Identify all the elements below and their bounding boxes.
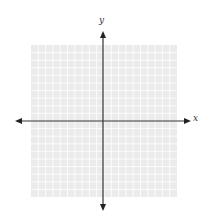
y-axis-up-arrow-icon: [100, 31, 106, 38]
y-axis-label: y: [99, 15, 104, 25]
x-axis-left-arrow-icon: [15, 118, 22, 124]
x-axis-label: x: [193, 113, 198, 123]
x-axis-right-arrow-icon: [184, 118, 191, 124]
y-axis-down-arrow-icon: [100, 204, 106, 211]
coordinate-plane: [0, 0, 217, 221]
